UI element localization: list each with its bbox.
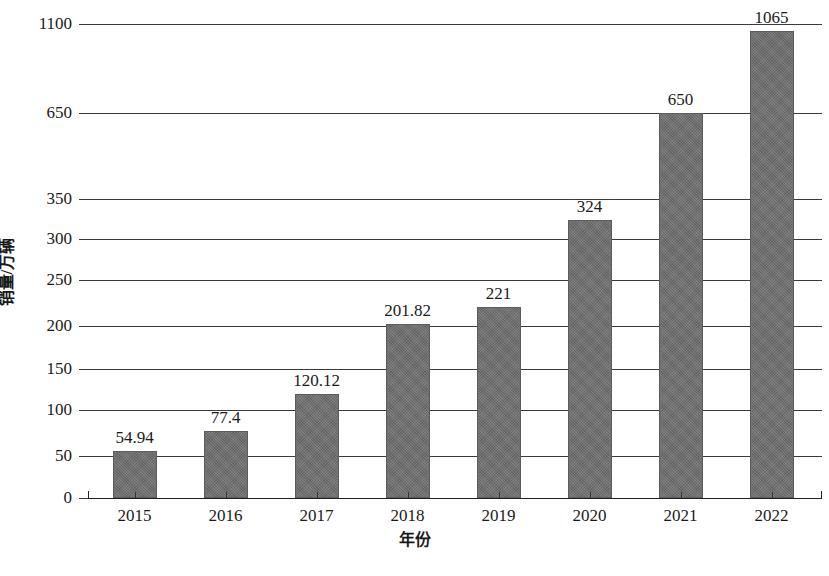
y-tick-label: 150 [0, 360, 72, 377]
bar-value-label: 324 [545, 198, 635, 215]
x-tick-label: 2020 [545, 506, 635, 525]
y-tick-label: 250 [0, 271, 72, 288]
x-axis-title: 年份 [0, 531, 829, 549]
bar [477, 307, 521, 498]
x-tick-label: 2016 [181, 506, 271, 525]
y-tick-label: 50 [0, 447, 72, 464]
bar-value-label: 201.82 [363, 302, 453, 319]
y-tick-label: 350 [0, 190, 72, 207]
y-tick-mark [79, 410, 88, 411]
y-tick-mark [79, 498, 88, 499]
x-tick-label: 2017 [272, 506, 362, 525]
x-tick-mark [681, 492, 682, 499]
x-tick-mark [590, 492, 591, 499]
y-tick-label: 650 [0, 104, 72, 121]
x-tick-label: 2019 [454, 506, 544, 525]
plot-area: 54.9477.4120.12201.822213246501065 [88, 24, 822, 498]
y-tick-mark [79, 24, 88, 25]
bar [113, 451, 157, 498]
x-axis-right-cap [821, 491, 822, 499]
bar-value-label: 650 [636, 91, 726, 108]
y-tick-label: 200 [0, 317, 72, 334]
figure-caption [0, 563, 829, 576]
bar-value-label: 221 [454, 285, 544, 302]
x-axis-line [88, 498, 822, 499]
bar-chart: 销量/万辆 54.9477.4120.12201.822213246501065… [0, 0, 829, 576]
y-tick-mark [79, 239, 88, 240]
bar [750, 31, 794, 498]
bar [204, 431, 248, 498]
gridline [88, 199, 822, 200]
gridline [88, 239, 822, 240]
x-tick-mark [499, 492, 500, 499]
x-tick-label: 2015 [90, 506, 180, 525]
y-tick-mark [79, 369, 88, 370]
x-tick-mark [772, 492, 773, 499]
gridline [88, 326, 822, 327]
gridline [88, 280, 822, 281]
y-tick-label: 0 [0, 489, 72, 506]
y-tick-mark [79, 199, 88, 200]
bar [568, 220, 612, 498]
bar [386, 324, 430, 498]
bar-value-label: 1065 [727, 9, 817, 26]
x-tick-label: 2018 [363, 506, 453, 525]
x-tick-mark [317, 492, 318, 499]
y-tick-mark [79, 113, 88, 114]
bar-value-label: 77.4 [181, 409, 271, 426]
x-tick-label: 2022 [727, 506, 817, 525]
bar [659, 113, 703, 498]
x-tick-label: 2021 [636, 506, 726, 525]
bar [295, 394, 339, 498]
gridline [88, 113, 822, 114]
x-tick-mark [408, 492, 409, 499]
x-axis-left-cap [88, 491, 89, 499]
y-tick-label: 1100 [0, 15, 72, 32]
y-tick-label: 300 [0, 230, 72, 247]
y-tick-label: 100 [0, 401, 72, 418]
x-tick-mark [226, 492, 227, 499]
y-tick-mark [79, 280, 88, 281]
bar-value-label: 120.12 [272, 372, 362, 389]
y-tick-mark [79, 456, 88, 457]
x-tick-mark [135, 492, 136, 499]
gridline [88, 24, 822, 25]
gridline [88, 369, 822, 370]
bar-value-label: 54.94 [90, 429, 180, 446]
gridline [88, 456, 822, 457]
y-tick-mark [79, 326, 88, 327]
